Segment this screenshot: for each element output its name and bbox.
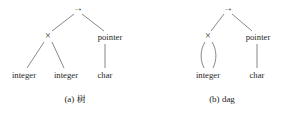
tree-edge-times-left (27, 42, 44, 68)
dag-pointer-node: pointer (246, 32, 271, 42)
tree-integer-node-left: integer (12, 70, 36, 80)
caption-dag: (b) dag (147, 93, 297, 105)
dag-edge-root-times (211, 14, 224, 31)
dag-integer-node: integer (196, 70, 220, 80)
figure-panel-dag: → × pointer integer char (b) dag (147, 0, 297, 119)
caption-dag-text: dag (222, 94, 235, 104)
caption-tree: (a) 树 (0, 93, 150, 105)
tree-edge-root-times (52, 14, 74, 31)
tree-edge-times-right (52, 42, 64, 68)
figure-panel-tree: → × pointer integer integer char (a) 树 (0, 0, 150, 119)
tree-pointer-node: pointer (98, 32, 123, 42)
tree-char-node: char (98, 70, 113, 80)
caption-dag-index: (b) (209, 94, 220, 104)
dag-char-node: char (250, 70, 265, 80)
caption-tree-index: (a) (64, 94, 74, 104)
tree-times-node: × (45, 31, 50, 41)
dag-edge-times-integer-left (201, 42, 205, 68)
dag-times-node: × (205, 31, 210, 41)
caption-tree-text: 树 (77, 94, 86, 104)
tree-integer-node-right: integer (54, 70, 78, 80)
dag-edge-times-integer-right (212, 42, 216, 68)
tree-edge-root-pointer (82, 14, 104, 31)
dag-root-arrow-node: → (223, 3, 233, 13)
tree-root-arrow-node: → (73, 3, 83, 13)
figure-container: → × pointer integer integer char (a) 树 →… (0, 0, 297, 119)
dag-edge-root-pointer (232, 14, 252, 31)
